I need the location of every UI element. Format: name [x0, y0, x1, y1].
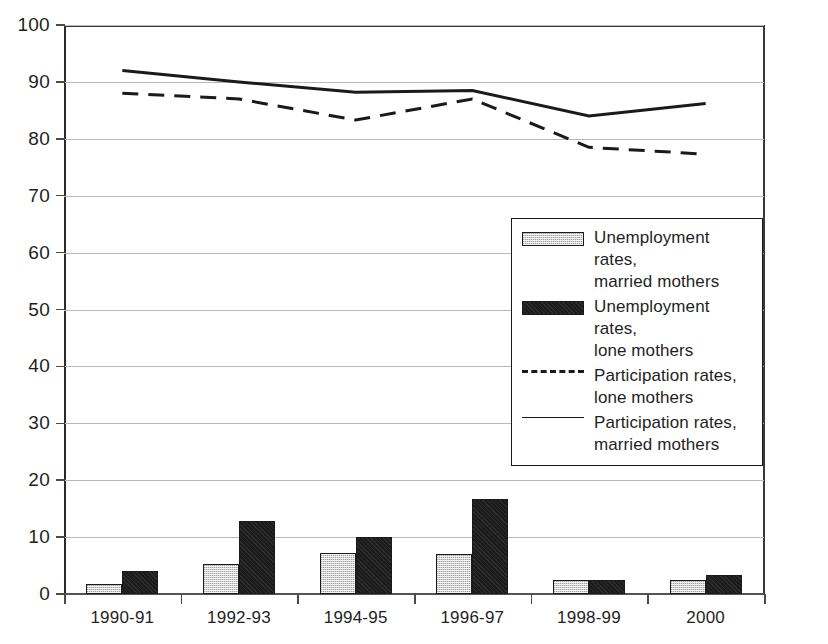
legend-item: Unemployment rates,married mothers: [512, 227, 762, 293]
x-axis-tick: [531, 594, 533, 604]
legend-swatch-cell: [522, 365, 594, 373]
legend-label-line1: Participation rates,: [594, 412, 737, 434]
legend-label-line2: lone mothers: [594, 340, 754, 362]
x-axis-label: 2000: [647, 608, 764, 628]
y-axis-label: 40: [2, 356, 50, 375]
legend-dashed-line-icon: [522, 370, 584, 373]
legend-label-line1: Unemployment rates,: [594, 227, 754, 271]
y-axis-label: 10: [2, 527, 50, 546]
legend-label-line2: lone mothers: [594, 387, 737, 409]
legend-label-line2: married mothers: [594, 271, 754, 293]
legend-label-line1: Unemployment rates,: [594, 296, 754, 340]
legend-label: Unemployment rates,lone mothers: [594, 296, 754, 362]
legend-solid-line-icon: [522, 417, 584, 418]
y-axis-label: 80: [2, 129, 50, 148]
y-axis-label: 30: [2, 413, 50, 432]
line-series: [122, 93, 705, 154]
y-axis-label: 50: [2, 300, 50, 319]
y-axis-label: 70: [2, 186, 50, 205]
y-axis-label: 90: [2, 72, 50, 91]
x-axis-tick: [64, 594, 66, 604]
legend-item: Participation rates,lone mothers: [512, 365, 762, 409]
legend-swatch-cell: [522, 227, 594, 246]
x-axis-tick: [647, 594, 649, 604]
x-axis-tick: [181, 594, 183, 604]
legend-item: Unemployment rates,lone mothers: [512, 296, 762, 362]
x-axis-label: 1994-95: [297, 608, 414, 628]
x-axis-label: 1998-99: [531, 608, 648, 628]
legend-label: Unemployment rates,married mothers: [594, 227, 754, 293]
y-axis-label: 60: [2, 243, 50, 262]
legend-label: Participation rates,lone mothers: [594, 365, 737, 409]
legend-swatch-cell: [522, 296, 594, 315]
legend-label-line2: married mothers: [594, 434, 737, 456]
y-axis-label: 0: [2, 584, 50, 603]
legend-swatch-light-bar-icon: [522, 232, 584, 246]
legend-item: Participation rates,married mothers: [512, 412, 762, 456]
legend-swatch-cell: [522, 412, 594, 418]
x-axis-label: 1996-97: [414, 608, 531, 628]
chart-container: 0102030405060708090100 1990-911992-93199…: [0, 0, 828, 644]
legend-swatch-dark-bar-icon: [522, 301, 584, 315]
chart-legend: Unemployment rates,married mothersUnempl…: [511, 218, 763, 466]
y-axis-label: 20: [2, 470, 50, 489]
x-axis-label: 1990-91: [64, 608, 181, 628]
x-axis-tick: [764, 594, 766, 604]
x-axis-tick: [414, 594, 416, 604]
legend-label: Participation rates,married mothers: [594, 412, 737, 456]
x-axis-tick: [297, 594, 299, 604]
legend-label-line1: Participation rates,: [594, 365, 737, 387]
x-axis-label: 1992-93: [181, 608, 298, 628]
y-axis-label: 100: [2, 15, 50, 34]
legend-rows: Unemployment rates,married mothersUnempl…: [512, 227, 762, 456]
